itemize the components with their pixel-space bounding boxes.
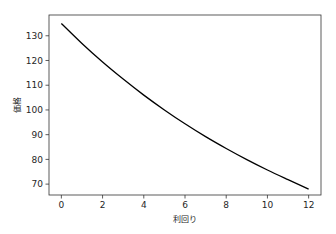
x-tick-label: 6 — [182, 200, 188, 210]
line-chart: 024681012 708090100110120130 利回り 価格 — [0, 0, 336, 234]
y-axis-ticks: 708090100110120130 — [26, 31, 49, 189]
y-tick-label: 80 — [32, 155, 44, 165]
plot-frame — [49, 15, 321, 195]
y-tick-label: 90 — [32, 130, 44, 140]
x-axis-label: 利回り — [173, 214, 197, 224]
y-tick-label: 120 — [26, 56, 43, 66]
y-axis-label: 価格 — [12, 97, 22, 113]
x-tick-label: 0 — [58, 200, 64, 210]
y-tick-label: 110 — [26, 80, 43, 90]
plot-area — [49, 15, 321, 195]
x-tick-label: 12 — [303, 200, 314, 210]
price-line — [61, 23, 308, 189]
x-tick-label: 10 — [262, 200, 274, 210]
x-tick-label: 2 — [100, 200, 106, 210]
x-tick-label: 4 — [141, 200, 147, 210]
y-tick-label: 130 — [26, 31, 43, 41]
y-tick-label: 70 — [32, 179, 44, 189]
x-tick-label: 8 — [223, 200, 229, 210]
x-axis-ticks: 024681012 — [58, 195, 314, 210]
y-tick-label: 100 — [26, 105, 43, 115]
